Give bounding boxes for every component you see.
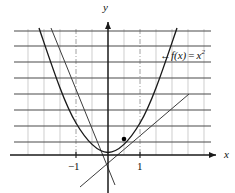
x-tick-label-negative-one: −1 [68,160,79,172]
secant-line [51,28,115,185]
function-exponent-text: 2 [201,48,205,56]
plot-canvas [0,0,235,193]
left-arrow-icon: ← [160,49,170,61]
function-name-text: f(x) [171,49,186,61]
y-axis-label: y [103,1,108,13]
function-annotation-label: ←f(x)=x2 [160,48,205,61]
y-axis [105,22,111,193]
tangency-point-marker [122,137,127,142]
equals-sign: = [188,49,194,61]
parabola-figure: y x −1 1 ←f(x)=x2 [0,0,235,193]
x-tick-label-positive-one: 1 [137,160,143,172]
x-axis-label: x [224,148,229,160]
x-axis [10,152,216,158]
